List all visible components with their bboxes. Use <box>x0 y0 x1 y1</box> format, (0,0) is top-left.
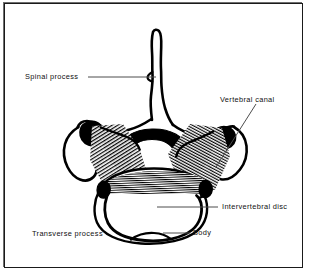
label-transverse-process: Transverse process <box>32 230 103 237</box>
figure-page: Spinal process Vertebral canal Intervert… <box>0 0 310 275</box>
label-spinal-process: Spinal process <box>25 73 78 80</box>
label-vertebral-canal: Vertebral canal <box>220 96 275 103</box>
vertebra-drawing <box>64 30 256 244</box>
label-body: Body <box>193 229 211 236</box>
left-inferior-articular-nub <box>97 181 110 198</box>
label-intervertebral-disc: Intervertebral disc <box>222 203 287 210</box>
right-inferior-articular-nub <box>199 181 212 198</box>
